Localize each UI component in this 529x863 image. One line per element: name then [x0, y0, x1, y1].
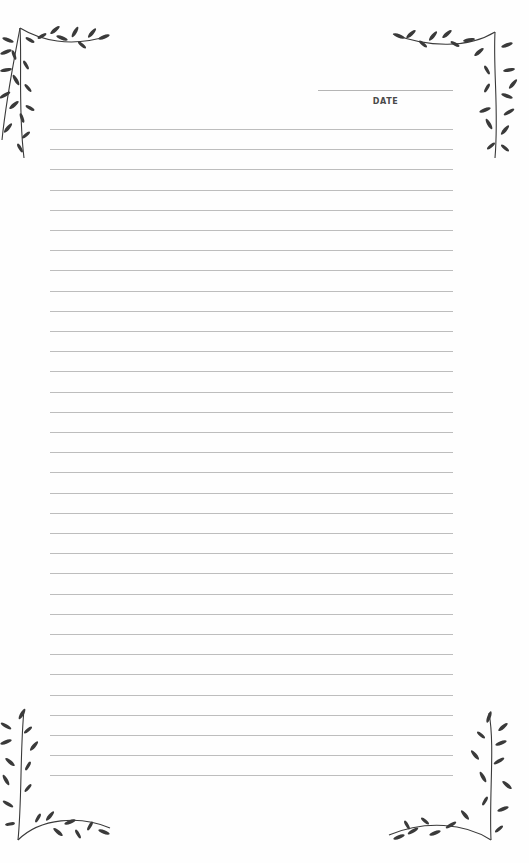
ruled-line[interactable] — [50, 674, 453, 675]
ruled-line[interactable] — [50, 291, 453, 292]
ruled-line[interactable] — [50, 573, 453, 574]
ruled-line[interactable] — [50, 412, 453, 413]
ruled-line[interactable] — [50, 533, 453, 534]
ruled-line[interactable] — [50, 472, 453, 473]
ruled-line[interactable] — [50, 513, 453, 514]
ruled-line[interactable] — [50, 493, 453, 494]
ruled-line[interactable] — [50, 230, 453, 231]
ruled-line[interactable] — [50, 351, 453, 352]
ruled-line[interactable] — [50, 553, 453, 554]
vine-corner-bottom-left-icon — [0, 700, 120, 850]
ruled-line[interactable] — [50, 210, 453, 211]
ruled-line[interactable] — [50, 371, 453, 372]
vine-corner-top-right-icon — [389, 0, 529, 165]
vine-corner-bottom-right-icon — [385, 705, 525, 850]
ruled-line[interactable] — [50, 250, 453, 251]
ruled-line[interactable] — [50, 594, 453, 595]
ruled-line[interactable] — [50, 654, 453, 655]
ruled-line[interactable] — [50, 169, 453, 170]
vine-corner-top-left-icon — [0, 0, 120, 165]
ruled-line[interactable] — [50, 190, 453, 191]
ruled-line[interactable] — [50, 311, 453, 312]
ruled-line[interactable] — [50, 695, 453, 696]
ruled-line[interactable] — [50, 614, 453, 615]
notepad-page: DATE — [0, 0, 529, 863]
ruled-line[interactable] — [50, 392, 453, 393]
ruled-line[interactable] — [50, 432, 453, 433]
ruled-line[interactable] — [50, 270, 453, 271]
ruled-line[interactable] — [50, 331, 453, 332]
ruled-line[interactable] — [50, 634, 453, 635]
ruled-line[interactable] — [50, 452, 453, 453]
